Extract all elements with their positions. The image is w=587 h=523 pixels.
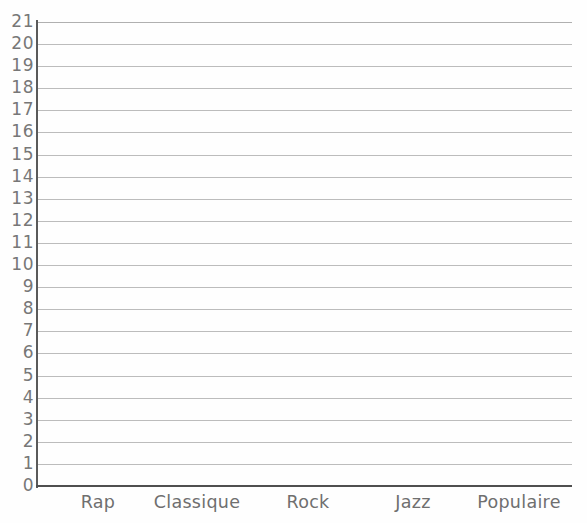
gridline bbox=[37, 155, 572, 156]
gridline bbox=[37, 464, 572, 465]
gridline bbox=[37, 177, 572, 178]
gridline bbox=[37, 353, 572, 354]
gridline bbox=[37, 66, 572, 67]
y-axis-tick-label: 0 bbox=[2, 477, 34, 494]
x-axis-line bbox=[36, 485, 572, 487]
x-axis-category-label: Rap bbox=[81, 492, 116, 512]
y-axis-tick-label: 4 bbox=[2, 389, 34, 406]
y-axis-tick-label: 5 bbox=[2, 367, 34, 384]
gridline bbox=[37, 22, 572, 23]
x-axis-category-label: Jazz bbox=[395, 492, 430, 512]
y-axis-tick-label: 19 bbox=[2, 57, 34, 74]
gridline bbox=[37, 309, 572, 310]
y-axis-tick-labels: 0123456789101112131415161718192021 bbox=[0, 0, 34, 523]
gridline bbox=[37, 110, 572, 111]
y-axis-tick-label: 1 bbox=[2, 455, 34, 472]
bar-chart-canvas: 0123456789101112131415161718192021 RapCl… bbox=[0, 0, 587, 523]
y-axis-tick-label: 21 bbox=[2, 13, 34, 30]
gridline bbox=[37, 287, 572, 288]
gridline bbox=[37, 331, 572, 332]
y-axis-tick-label: 7 bbox=[2, 322, 34, 339]
gridline bbox=[37, 132, 572, 133]
y-axis-tick-label: 6 bbox=[2, 344, 34, 361]
y-axis-tick-label: 10 bbox=[2, 256, 34, 273]
gridline bbox=[37, 88, 572, 89]
gridline bbox=[37, 44, 572, 45]
gridline bbox=[37, 376, 572, 377]
gridline bbox=[37, 199, 572, 200]
gridline bbox=[37, 442, 572, 443]
y-axis-tick-label: 13 bbox=[2, 190, 34, 207]
gridline bbox=[37, 243, 572, 244]
y-axis-tick-label: 9 bbox=[2, 278, 34, 295]
y-axis-tick-label: 16 bbox=[2, 123, 34, 140]
y-axis-tick-label: 20 bbox=[2, 35, 34, 52]
gridline bbox=[37, 265, 572, 266]
gridline bbox=[37, 420, 572, 421]
y-axis-tick-label: 18 bbox=[2, 79, 34, 96]
y-axis-tick-label: 3 bbox=[2, 411, 34, 428]
gridline bbox=[37, 221, 572, 222]
y-axis-tick-label: 11 bbox=[2, 234, 34, 251]
plot-area bbox=[37, 22, 572, 486]
x-axis-category-label: Rock bbox=[286, 492, 329, 512]
y-axis-tick-label: 8 bbox=[2, 300, 34, 317]
y-axis-tick-label: 17 bbox=[2, 101, 34, 118]
x-axis-category-label: Populaire bbox=[477, 492, 561, 512]
y-axis-line bbox=[36, 20, 38, 488]
y-axis-tick-label: 15 bbox=[2, 146, 34, 163]
y-axis-tick-label: 12 bbox=[2, 212, 34, 229]
gridline bbox=[37, 398, 572, 399]
y-axis-tick-label: 14 bbox=[2, 168, 34, 185]
x-axis-category-label: Classique bbox=[154, 492, 241, 512]
y-axis-tick-label: 2 bbox=[2, 433, 34, 450]
